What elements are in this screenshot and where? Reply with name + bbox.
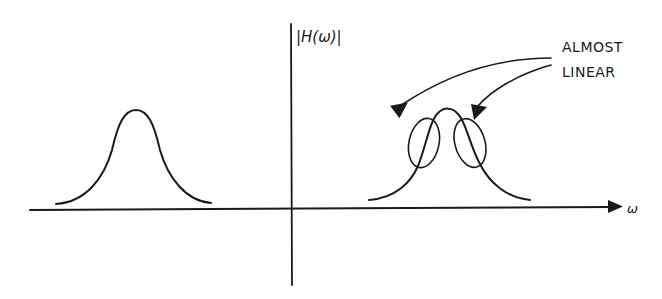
annotation-arrow-right (478, 65, 551, 106)
annotation-arrowhead-right-icon (471, 104, 487, 120)
positive-frequency-bump (369, 109, 530, 200)
linear-region-left-ellipse (404, 115, 444, 170)
x-axis-label: ω (627, 201, 638, 216)
negative-frequency-bump (56, 110, 211, 204)
y-axis-label: |H(ω)| (296, 28, 342, 46)
axis-arrowhead-icon (608, 200, 623, 213)
magnitude-axis (291, 24, 292, 285)
annotation-arrow-left (400, 58, 551, 106)
annotation-line-2: LINEAR (562, 64, 616, 80)
annotation-arrowhead-left-icon (390, 103, 410, 120)
omega-axis (30, 200, 623, 213)
bandpass-magnitude-diagram: |H(ω)| ω ALMOST LINEAR (0, 0, 662, 299)
annotation-line-1: ALMOST (562, 39, 623, 55)
diagram-svg: |H(ω)| ω ALMOST LINEAR (0, 0, 662, 299)
